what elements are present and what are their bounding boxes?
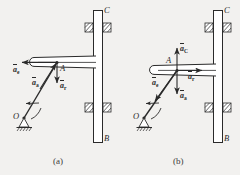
- pin-support-O: [137, 116, 153, 131]
- mechanism-acceleration-figure: [0, 0, 240, 175]
- vertical-bar-BC: [214, 11, 223, 143]
- angular-velocity-arrow: [146, 103, 159, 104]
- rotation-arc-arrow: [151, 108, 161, 119]
- vector-arrow-aa: [40, 64, 56, 90]
- pin-support-O: [17, 116, 33, 131]
- rotation-arc-arrow: [31, 108, 41, 119]
- angular-velocity-arrow: [26, 103, 39, 104]
- panel-b: [137, 11, 232, 143]
- vertical-bar-BC: [94, 11, 103, 143]
- panel-a: [17, 11, 112, 143]
